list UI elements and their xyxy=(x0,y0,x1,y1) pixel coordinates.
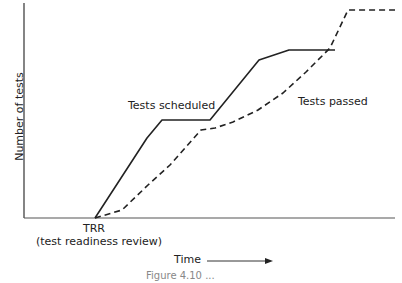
time-arrow-head xyxy=(265,258,273,264)
tests-scheduled-label: Tests scheduled xyxy=(128,99,215,112)
tests-passed-line xyxy=(95,10,395,218)
trr-description: (test readiness review) xyxy=(36,235,162,248)
tests-scheduled-line xyxy=(95,50,335,218)
y-axis-label: Number of tests xyxy=(13,72,26,162)
x-axis-label: Time xyxy=(174,253,201,266)
trr-label: TRR xyxy=(83,222,105,235)
tests-passed-label: Tests passed xyxy=(298,95,368,108)
figure-caption: Figure 4.10 ... xyxy=(146,270,215,281)
